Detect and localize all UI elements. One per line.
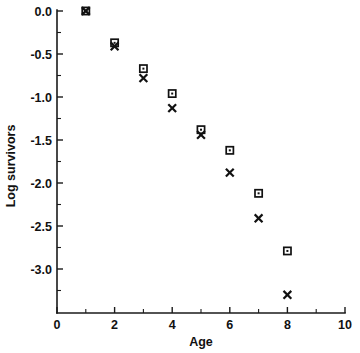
x-tick-label-2: 4 <box>169 318 176 332</box>
y-tick-label-6: -3.0 <box>30 263 52 277</box>
x-axis-ticks <box>57 307 345 313</box>
x-tick-label-1: 2 <box>111 318 118 332</box>
x-tick-label-3: 6 <box>226 318 233 332</box>
data-point-square <box>226 147 233 154</box>
y-tick-label-0: 0.0 <box>35 5 52 19</box>
x-axis-title: Age <box>189 335 213 349</box>
data-point-x <box>284 291 292 299</box>
chart-figure: 0.0 -0.5 -1.0 -1.5 -2.0 -2.5 -3.0 0 2 4 <box>0 0 360 353</box>
y-tick-label-2: -1.0 <box>30 91 52 105</box>
y-tick-label-5: -2.5 <box>30 220 52 234</box>
y-tick-label-4: -2.0 <box>30 177 52 191</box>
data-point-x <box>82 7 90 15</box>
x-axis-tick-labels: 0 2 4 6 8 10 <box>54 318 352 332</box>
data-point-x <box>226 169 234 177</box>
x-tick-label-0: 0 <box>54 318 61 332</box>
x-tick-label-4: 8 <box>284 318 291 332</box>
y-axis-title: Log survivors <box>4 125 18 208</box>
x-tick-label-5: 10 <box>338 318 352 332</box>
data-point-square <box>169 90 176 97</box>
data-point-x <box>197 131 205 139</box>
y-axis-ticks <box>57 11 63 291</box>
data-point-square <box>140 65 147 72</box>
y-tick-label-1: -0.5 <box>30 48 52 62</box>
scatter-plot: 0.0 -0.5 -1.0 -1.5 -2.0 -2.5 -3.0 0 2 4 <box>0 0 360 353</box>
data-point-square <box>255 190 262 197</box>
data-point-square <box>284 247 291 254</box>
data-point-x <box>168 104 176 112</box>
series-fitted-markers <box>82 7 291 299</box>
axes-lines <box>57 10 345 313</box>
y-axis-tick-labels: 0.0 -0.5 -1.0 -1.5 -2.0 -2.5 -3.0 <box>30 5 52 277</box>
data-point-x <box>140 74 148 82</box>
y-tick-label-3: -1.5 <box>30 134 52 148</box>
data-point-x <box>255 214 263 222</box>
